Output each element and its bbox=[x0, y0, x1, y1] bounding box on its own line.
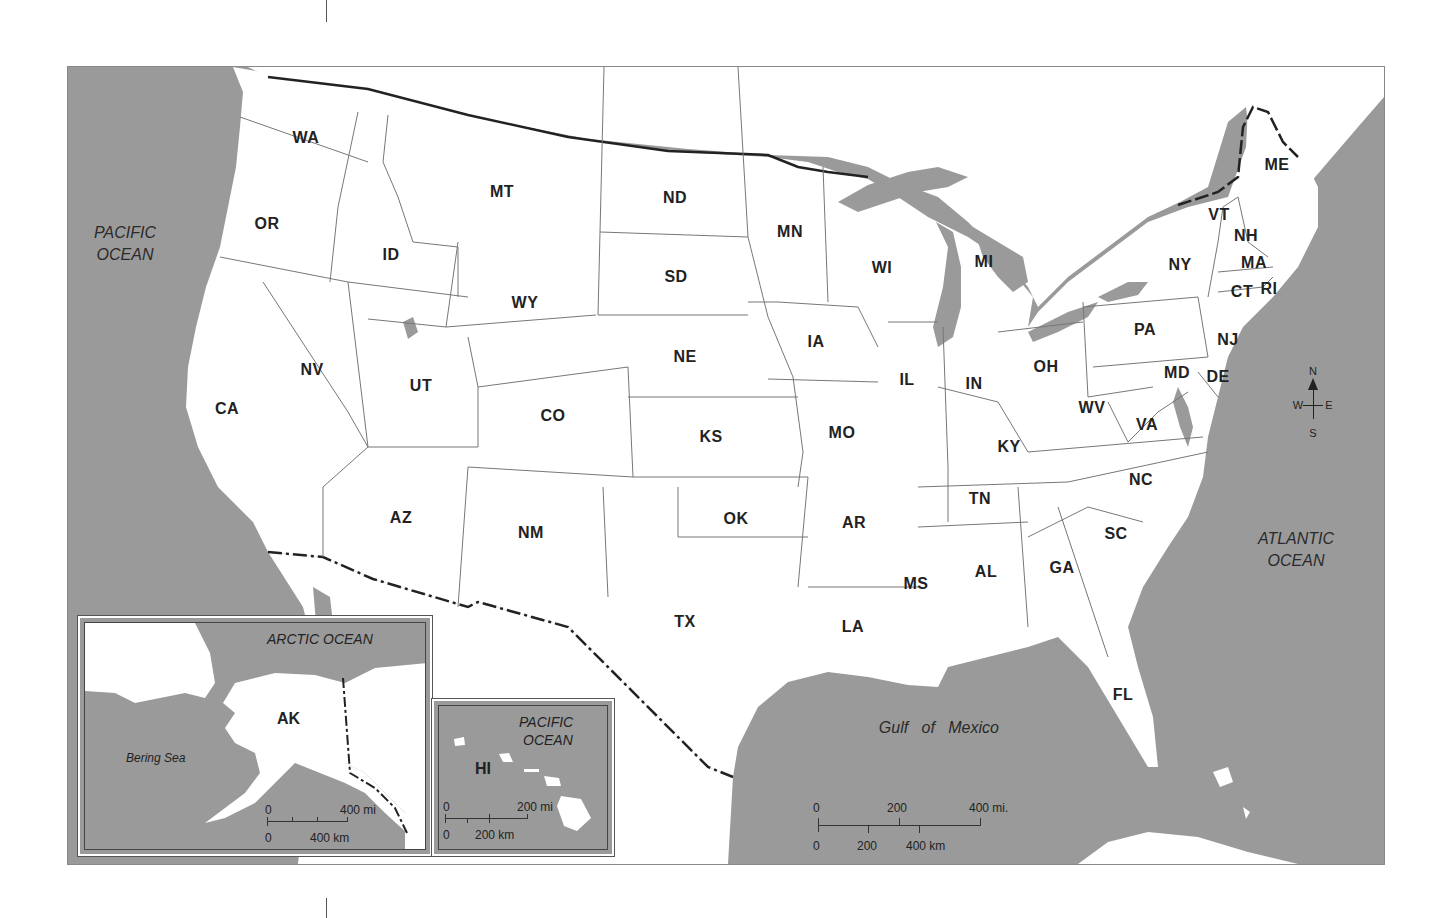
hi-scale-mi-200: 200 mi bbox=[517, 800, 553, 814]
scale-tick bbox=[347, 817, 348, 822]
state-label-ar: AR bbox=[842, 514, 866, 532]
ak-scale-line bbox=[267, 821, 347, 822]
state-label-nh: NH bbox=[1234, 227, 1258, 245]
state-label-me: ME bbox=[1265, 156, 1290, 174]
state-label-ny: NY bbox=[1168, 256, 1191, 274]
state-label-la: LA bbox=[842, 618, 864, 636]
scale-mi-0: 0 bbox=[813, 801, 820, 815]
scale-km-0: 0 bbox=[813, 839, 820, 853]
state-label-nj: NJ bbox=[1217, 331, 1238, 349]
canada-yukon-land bbox=[345, 663, 426, 850]
maui bbox=[544, 776, 561, 786]
state-label-nv: NV bbox=[300, 361, 323, 379]
hawaii-label: HI bbox=[475, 760, 491, 778]
state-label-tx: TX bbox=[674, 613, 695, 631]
hawaii-inset: PACIFIC OCEAN HI 0 200 mi 0 200 km bbox=[432, 699, 614, 856]
state-label-sc: SC bbox=[1104, 525, 1127, 543]
compass-horizontal-line bbox=[1303, 405, 1323, 406]
state-label-in: IN bbox=[966, 375, 983, 393]
kauai bbox=[454, 737, 465, 746]
state-label-or: OR bbox=[255, 215, 280, 233]
state-label-vt: VT bbox=[1208, 206, 1229, 224]
scale-tick bbox=[980, 818, 981, 826]
atlantic-ocean-label: ATLANTIC OCEAN bbox=[1258, 528, 1334, 572]
state-label-co: CO bbox=[541, 407, 566, 425]
state-label-wa: WA bbox=[293, 129, 320, 147]
compass-south: S bbox=[1309, 427, 1316, 439]
state-label-wy: WY bbox=[512, 294, 539, 312]
crop-mark-bottom bbox=[326, 898, 327, 918]
state-label-ri: RI bbox=[1261, 280, 1278, 298]
scale-mi-400: 400 mi. bbox=[969, 801, 1008, 815]
scale-tick bbox=[292, 817, 293, 822]
ak-scale-km-0: 0 bbox=[265, 831, 272, 845]
state-label-ok: OK bbox=[724, 510, 749, 528]
state-label-ca: CA bbox=[215, 400, 239, 418]
hawaii-pacific-label-2: OCEAN bbox=[523, 732, 573, 748]
state-label-ma: MA bbox=[1241, 254, 1267, 272]
state-label-de: DE bbox=[1206, 368, 1229, 386]
gulf-of-mexico-text: Gulf of Mexico bbox=[879, 719, 999, 736]
compass-west: W bbox=[1293, 399, 1303, 411]
alaska-label: AK bbox=[277, 710, 300, 728]
state-label-wv: WV bbox=[1079, 399, 1106, 417]
scale-tick bbox=[899, 818, 900, 826]
state-label-oh: OH bbox=[1034, 358, 1059, 376]
state-label-ms: MS bbox=[904, 575, 929, 593]
hi-scale-line bbox=[445, 818, 527, 819]
state-label-ia: IA bbox=[808, 333, 825, 351]
hawaii-inset-frame: PACIFIC OCEAN HI 0 200 mi 0 200 km bbox=[438, 705, 608, 850]
cuba bbox=[1078, 832, 1298, 864]
hawaii-pacific-label-1: PACIFIC bbox=[519, 714, 573, 730]
ak-scale-mi-0: 0 bbox=[265, 803, 272, 817]
scale-tick bbox=[467, 818, 468, 823]
hi-scale-km-200: 200 km bbox=[475, 828, 514, 842]
scale-bar: 0 200 400 mi. 0 200 400 km bbox=[816, 801, 1016, 856]
pacific-ocean-line1: PACIFIC bbox=[94, 222, 156, 244]
state-label-tn: TN bbox=[969, 490, 991, 508]
state-label-sd: SD bbox=[664, 268, 687, 286]
us-map: WAORIDMTNDSDWYMNWIMINYVTNHMEMACTRINJPADE… bbox=[67, 66, 1385, 865]
alaska-inset-frame: ARCTIC OCEAN AK Bering Sea 0 400 mi 0 40… bbox=[84, 622, 426, 850]
hi-scale-km-0: 0 bbox=[443, 828, 450, 842]
state-label-mn: MN bbox=[777, 223, 803, 241]
scale-mi-200: 200 bbox=[887, 801, 907, 815]
state-label-md: MD bbox=[1164, 364, 1190, 382]
scale-tick bbox=[489, 814, 490, 823]
state-label-fl: FL bbox=[1113, 686, 1134, 704]
gulf-of-mexico-label: Gulf of Mexico bbox=[861, 695, 999, 761]
state-label-ut: UT bbox=[410, 377, 432, 395]
crop-mark-top bbox=[326, 0, 327, 22]
molokai bbox=[524, 769, 539, 772]
state-label-id: ID bbox=[383, 246, 400, 264]
compass-vertical-line bbox=[1313, 389, 1315, 419]
pacific-ocean-line2: OCEAN bbox=[94, 244, 156, 266]
scale-tick bbox=[818, 818, 819, 832]
pacific-ocean-label: PACIFIC OCEAN bbox=[94, 222, 156, 266]
scale-tick bbox=[267, 817, 268, 826]
scale-km-400: 400 km bbox=[906, 839, 945, 853]
state-label-wi: WI bbox=[872, 259, 893, 277]
state-label-ct: CT bbox=[1231, 283, 1253, 301]
alaska-inset: ARCTIC OCEAN AK Bering Sea 0 400 mi 0 40… bbox=[78, 616, 432, 856]
oahu bbox=[499, 753, 513, 762]
ak-scale-mi-400: 400 mi bbox=[340, 803, 376, 817]
atlantic-ocean-line1: ATLANTIC bbox=[1258, 528, 1334, 550]
scale-km-200: 200 bbox=[857, 839, 877, 853]
atlantic-ocean-line2: OCEAN bbox=[1258, 550, 1334, 572]
russia-land bbox=[85, 623, 215, 703]
state-label-nd: ND bbox=[663, 189, 687, 207]
hawaii-big-island bbox=[557, 796, 591, 831]
arctic-ocean-label: ARCTIC OCEAN bbox=[267, 631, 373, 647]
compass-rose: N W E S bbox=[1296, 363, 1336, 443]
bering-sea-label: Bering Sea bbox=[126, 751, 185, 765]
state-label-mo: MO bbox=[829, 424, 856, 442]
state-label-ga: GA bbox=[1050, 559, 1075, 577]
state-label-az: AZ bbox=[390, 509, 412, 527]
state-label-al: AL bbox=[975, 563, 997, 581]
state-label-ks: KS bbox=[699, 428, 722, 446]
hi-scale-mi-0: 0 bbox=[443, 800, 450, 814]
scale-tick bbox=[445, 814, 446, 823]
state-label-mi: MI bbox=[975, 253, 994, 271]
scale-tick bbox=[317, 817, 318, 822]
